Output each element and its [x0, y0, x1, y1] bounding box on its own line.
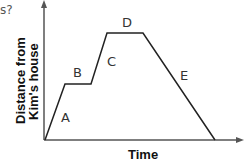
- y-axis-arrow-icon: [41, 0, 47, 8]
- distance-time-graph: s? A B C D E Time Distance from Kim's ho…: [0, 0, 246, 166]
- x-axis-label: Time: [128, 147, 158, 162]
- segment-label-b: B: [73, 65, 82, 80]
- distance-line: [45, 33, 215, 140]
- segment-label-e: E: [180, 68, 188, 83]
- x-axis-arrow-icon: [236, 137, 244, 143]
- y-axis-label-line2: Kim's house: [26, 43, 41, 120]
- segment-label-d: D: [122, 15, 132, 30]
- question-fragment: s?: [0, 3, 13, 17]
- segment-label-a: A: [61, 110, 70, 125]
- segment-label-c: C: [107, 54, 116, 69]
